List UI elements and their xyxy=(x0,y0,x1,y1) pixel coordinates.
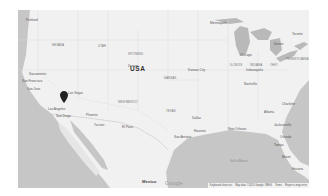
terms-link[interactable]: Terms xyxy=(275,184,282,187)
city-label: New Orleans xyxy=(228,128,246,131)
city-label: San Francisco xyxy=(22,80,42,83)
state-label: ILLINOIS xyxy=(230,64,242,67)
state-label: INDIANA xyxy=(250,64,262,67)
city-label: Miami xyxy=(282,156,291,159)
city-label: Dallas xyxy=(192,117,201,120)
city-label: Phoenix xyxy=(86,114,98,117)
city-label: El Paso xyxy=(122,126,133,129)
city-label: Havana xyxy=(292,168,303,171)
city-label: Chicago xyxy=(240,54,252,57)
map-pin-icon xyxy=(60,91,68,103)
state-label: UTAH xyxy=(98,45,106,48)
city-label: Portland xyxy=(26,19,38,22)
city-label: Los Angeles xyxy=(48,108,65,111)
city-label: Kansas City xyxy=(188,69,205,72)
state-label: PENNSYLVANIA xyxy=(286,58,309,61)
map-attribution-bar: Keyboard shortcuts Map data ©2024 Google… xyxy=(208,183,309,188)
city-label: Nashville xyxy=(244,83,257,86)
map-data-attribution: Map data ©2024 Google, INEGI xyxy=(235,184,272,187)
state-label: NEVADA xyxy=(52,44,64,47)
city-label: Sacramento xyxy=(29,73,46,76)
city-label: Jacksonville xyxy=(274,124,291,127)
report-error-link[interactable]: Report a map error xyxy=(285,184,307,187)
water-label: Gulf of Mexico xyxy=(230,160,248,163)
country-label-mexico: Mexico xyxy=(142,180,156,184)
city-label: Denver xyxy=(128,65,138,68)
city-label: Tucson xyxy=(94,124,104,127)
city-label: Las Vegas xyxy=(68,92,83,95)
city-label: Houston xyxy=(194,130,206,133)
google-logo: Google xyxy=(165,180,183,186)
map-marker[interactable] xyxy=(60,91,68,103)
city-label: Atlanta xyxy=(264,111,274,114)
city-label: Indianapolis xyxy=(246,69,263,72)
state-label: KANSAS xyxy=(164,77,176,80)
city-label: San Diego xyxy=(56,115,71,118)
city-label: San Antonio xyxy=(174,136,191,139)
city-label: Charlotte xyxy=(282,103,295,106)
state-label: NEW MEXICO xyxy=(118,101,138,104)
city-label: Orlando xyxy=(280,136,291,139)
city-label: Minneapolis xyxy=(210,22,227,25)
map-canvas[interactable]: USA Mexico Portland Sacramento San Franc… xyxy=(18,10,309,188)
state-label: TEXAS xyxy=(166,110,176,113)
city-label: Detroit xyxy=(274,43,283,46)
state-label: OHIO xyxy=(270,64,278,67)
state-label: WYOMING xyxy=(128,53,143,56)
city-label: Toronto xyxy=(292,33,303,36)
city-label: Tampa xyxy=(274,144,284,147)
keyboard-shortcuts-link[interactable]: Keyboard shortcuts xyxy=(210,184,232,187)
city-label: San Jose xyxy=(27,88,40,91)
